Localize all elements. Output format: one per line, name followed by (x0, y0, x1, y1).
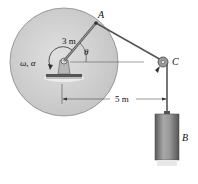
label-omega-alpha: ω, α (20, 58, 36, 68)
label-theta: θ (84, 47, 89, 57)
label-b: B (182, 132, 188, 143)
block-b (155, 111, 179, 166)
pulley-c (155, 57, 168, 73)
label-a: A (97, 9, 105, 20)
label-distance: 5 m (115, 94, 129, 104)
label-radius: 3 m (62, 36, 76, 46)
label-c: C (172, 56, 179, 67)
mechanism-diagram: A C B ω, α θ 3 m 5 m (0, 0, 198, 184)
point-a-pin (94, 21, 98, 25)
